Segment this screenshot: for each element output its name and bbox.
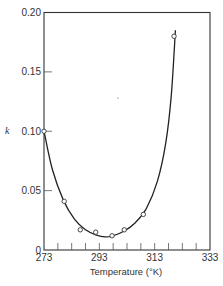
data-point [141,212,145,216]
y-axis-ticks: 00.050.100.150.20 [22,7,52,256]
x-tick-label: 313 [146,252,163,263]
plot-border [44,13,210,251]
plot-frame [44,13,210,251]
chart: 00.050.100.150.20 273293313333 k Tempera… [0,0,223,286]
data-point [172,34,176,38]
x-tick-label: 293 [91,252,108,263]
y-axis-title: k [5,125,10,136]
data-points [42,34,176,238]
x-axis-title: Temperature (°K) [90,266,162,277]
y-tick-label: 0.05 [22,185,42,196]
x-tick-label: 333 [202,252,219,263]
data-point [94,230,98,234]
data-point [78,228,82,232]
y-tick-label: 0.10 [22,126,42,137]
data-point [42,129,46,133]
y-tick-label: 0.20 [22,7,42,18]
data-point [122,228,126,232]
data-point [110,234,114,238]
data-point [62,199,66,203]
stray-dot [117,97,118,98]
x-tick-label: 273 [36,252,53,263]
x-axis-ticks: 273293313333 [36,243,219,263]
y-tick-label: 0.15 [22,66,42,77]
fitted-curve [44,30,175,237]
